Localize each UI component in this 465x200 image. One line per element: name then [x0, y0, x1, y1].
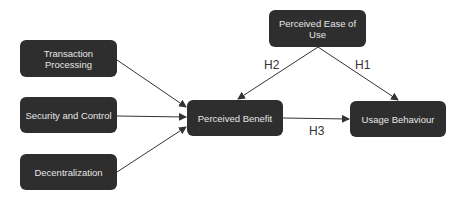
- edge-security-to-benefit: [117, 116, 186, 117]
- node-decentralization: Decentralization: [20, 154, 117, 190]
- node-security-control: Security and Control: [20, 97, 117, 133]
- node-perceived-ease-of-use: Perceived Ease of Use: [269, 10, 366, 47]
- node-label: Transaction: [44, 48, 93, 59]
- node-label: Perceived Benefit: [198, 113, 272, 124]
- edge-ease-to-benefit: [238, 47, 318, 99]
- node-label: Usage Behaviour: [362, 114, 435, 125]
- research-model-diagram: Transaction Processing Security and Cont…: [0, 0, 465, 200]
- node-label: Perceived Ease of Use: [273, 18, 362, 40]
- node-label: Processing: [45, 59, 92, 70]
- edge-decentralization-to-benefit: [117, 127, 186, 172]
- edge-ease-to-usage: [318, 47, 398, 100]
- node-perceived-benefit: Perceived Benefit: [187, 100, 283, 136]
- node-label: Security and Control: [25, 110, 111, 121]
- node-transaction-processing: Transaction Processing: [20, 40, 117, 77]
- edge-label-h2: H2: [264, 58, 279, 72]
- node-label: Decentralization: [34, 167, 102, 178]
- edge-benefit-to-usage: [283, 118, 349, 119]
- edge-label-h1: H1: [355, 58, 370, 72]
- node-usage-behaviour: Usage Behaviour: [350, 101, 446, 137]
- edge-label-h3: H3: [309, 124, 324, 138]
- edge-transaction-to-benefit: [117, 60, 186, 107]
